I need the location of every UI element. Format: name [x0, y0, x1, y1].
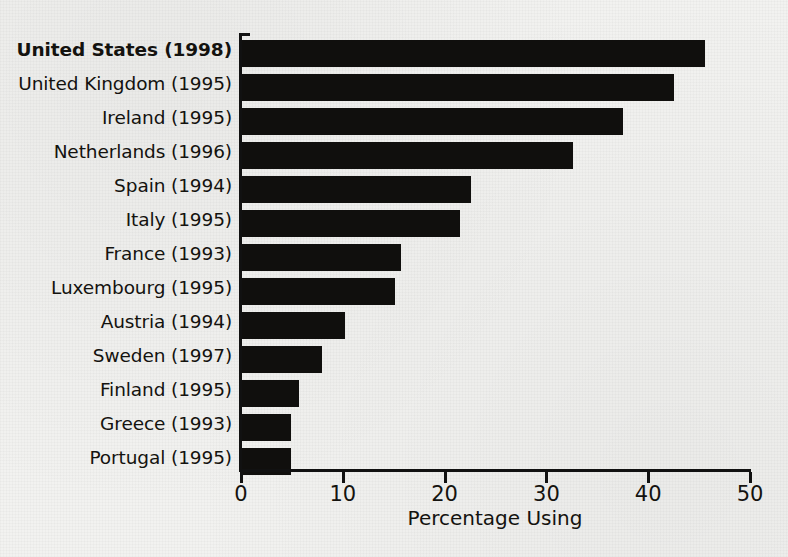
x-axis-tick-label: 10 — [329, 482, 356, 506]
bar — [242, 176, 471, 203]
x-axis-tick-label: 40 — [635, 482, 662, 506]
bar-row — [242, 380, 751, 414]
bar-row — [242, 40, 751, 74]
category-label: Austria (1994) — [0, 305, 232, 339]
bar-row — [242, 346, 751, 380]
bar-row — [242, 244, 751, 278]
category-label: Sweden (1997) — [0, 339, 232, 373]
bars-group — [242, 40, 751, 482]
bar — [242, 108, 623, 135]
category-label: France (1993) — [0, 237, 232, 271]
category-axis-labels: United States (1998)United Kingdom (1995… — [0, 33, 232, 475]
bar-row — [242, 108, 751, 142]
y-axis-top-cap — [239, 33, 250, 36]
bar — [242, 414, 291, 441]
category-label: United Kingdom (1995) — [0, 67, 232, 101]
category-label: Greece (1993) — [0, 407, 232, 441]
plot-area: 01020304050 — [239, 33, 751, 472]
bar — [242, 74, 674, 101]
bar-row — [242, 278, 751, 312]
x-axis-title: Percentage Using — [239, 506, 751, 530]
bar-row — [242, 210, 751, 244]
bar-row — [242, 176, 751, 210]
bar — [242, 142, 573, 169]
bar-row — [242, 142, 751, 176]
bar — [242, 244, 401, 271]
bar-row — [242, 74, 751, 108]
x-axis-tick-label: 50 — [737, 482, 764, 506]
category-label: Finland (1995) — [0, 373, 232, 407]
category-label: United States (1998) — [0, 33, 232, 67]
bar-chart-figure: United States (1998)United Kingdom (1995… — [0, 0, 788, 557]
category-label: Luxembourg (1995) — [0, 271, 232, 305]
bar — [242, 210, 460, 237]
bar — [242, 346, 322, 373]
category-label: Italy (1995) — [0, 203, 232, 237]
bar — [242, 312, 345, 339]
bar — [242, 380, 299, 407]
x-axis-tick-label: 0 — [234, 482, 247, 506]
x-axis-tick-label: 30 — [533, 482, 560, 506]
bar-row — [242, 312, 751, 346]
bar — [242, 278, 395, 305]
category-label: Netherlands (1996) — [0, 135, 232, 169]
category-label: Spain (1994) — [0, 169, 232, 203]
bar-row — [242, 414, 751, 448]
category-label: Ireland (1995) — [0, 101, 232, 135]
bar — [242, 40, 705, 67]
x-axis-tick-label: 20 — [431, 482, 458, 506]
category-label: Portugal (1995) — [0, 441, 232, 475]
